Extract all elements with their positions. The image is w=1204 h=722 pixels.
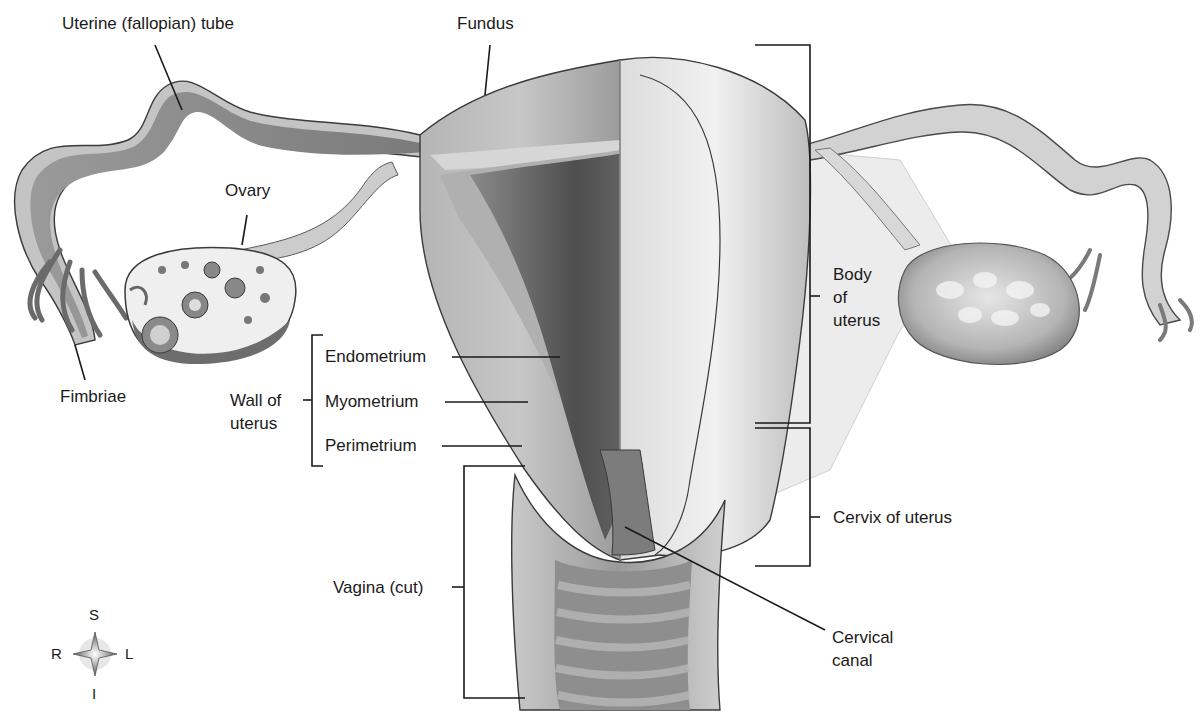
label-cervix: Cervix of uterus [833, 507, 952, 528]
label-cervical-canal-line1: Cervical [832, 627, 893, 648]
uterus [420, 58, 810, 561]
label-body-line2: of [833, 287, 847, 308]
label-myometrium: Myometrium [325, 391, 419, 412]
label-uterine-tube: Uterine (fallopian) tube [62, 13, 234, 34]
label-ovary: Ovary [225, 180, 270, 201]
label-perimetrium: Perimetrium [325, 435, 417, 456]
label-endometrium: Endometrium [325, 346, 426, 367]
compass-inferior-label: I [92, 685, 96, 702]
label-body-line3: uterus [833, 310, 880, 331]
label-fundus: Fundus [457, 13, 514, 34]
label-wall-of-uterus-line1: Wall of [230, 390, 281, 411]
compass-right-label: R [51, 645, 62, 662]
left-ovarian-ligament [240, 162, 398, 262]
label-cervical-canal-line2: canal [832, 650, 873, 671]
compass-left-label: L [125, 645, 133, 662]
compass-superior-label: S [89, 606, 99, 623]
label-body-line1: Body [833, 264, 872, 285]
left-ovary [125, 247, 296, 364]
label-wall-of-uterus-line2: uterus [230, 413, 277, 434]
uterus-anatomy-illustration [0, 0, 1204, 722]
label-fimbriae: Fimbriae [60, 386, 126, 407]
label-vagina: Vagina (cut) [333, 577, 423, 598]
right-ovary [898, 243, 1079, 364]
compass-star-icon [73, 632, 117, 676]
